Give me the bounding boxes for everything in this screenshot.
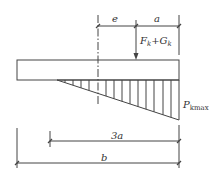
label-3a: 3a [111, 130, 123, 141]
label-load: Fk+Gk [139, 35, 172, 48]
force-arrow-icon [134, 53, 139, 60]
label-pressure: Pkmax [182, 99, 209, 112]
label-b: b [101, 152, 107, 163]
pressure-triangle [57, 80, 179, 120]
foundation-diagram: e a Fk+Gk Pkmax 3a b [0, 0, 219, 178]
label-a: a [154, 13, 160, 24]
label-e: e [112, 13, 118, 24]
